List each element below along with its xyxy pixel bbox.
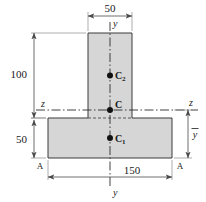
- web-height-dimension: 100: [11, 33, 87, 118]
- ybar-dimension: y: [174, 110, 199, 158]
- web-height-value: 100: [11, 68, 28, 80]
- ybar-value-group: y: [192, 129, 199, 141]
- flange-height-value: 50: [16, 133, 28, 145]
- ybar-value: y: [192, 129, 198, 140]
- flange-width-value: 150: [124, 164, 141, 176]
- composite-centroid-dot: [107, 107, 113, 113]
- section-mark-right: A: [177, 161, 184, 171]
- web-centroid-subscript: 2: [122, 75, 126, 83]
- z-axis-label-left: z: [40, 98, 45, 109]
- composite-centroid-label: C: [115, 99, 122, 110]
- tee-section-diagram: y y z z C 2 C C 1 50: [0, 0, 206, 202]
- flange-height-dimension: 50: [16, 118, 46, 158]
- flange-centroid-dot: [107, 135, 113, 141]
- z-axis-label-right: z: [188, 97, 193, 108]
- figure-canvas: y y z z C 2 C C 1 50: [0, 0, 206, 202]
- y-axis-label-bottom: y: [112, 187, 118, 198]
- flange-centroid-subscript: 1: [122, 138, 126, 146]
- section-mark-left: A: [37, 161, 44, 171]
- y-axis-label-top: y: [112, 18, 118, 29]
- web-centroid-dot: [107, 73, 113, 79]
- web-width-value: 50: [105, 2, 117, 14]
